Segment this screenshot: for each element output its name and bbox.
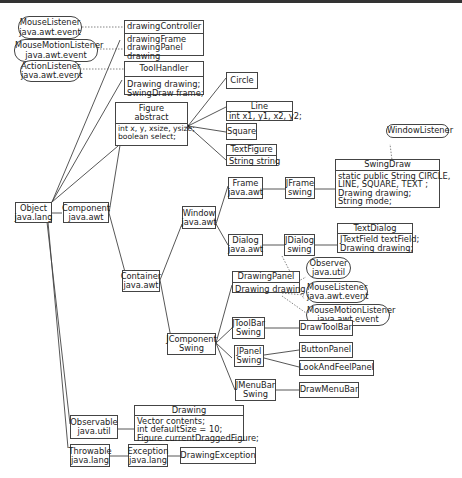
drawing-controller-class: drawingController drawingFrame drawingPa… [124, 20, 204, 56]
class-hierarchy-diagram: MouseListener java.awt.event MouseMotion… [0, 0, 462, 478]
button-panel-class: ButtonPanel [299, 342, 353, 358]
field: drawing [127, 52, 201, 61]
jdialog-class: JDialogswing [284, 234, 315, 256]
frame-class: Framejava.awt [228, 177, 263, 199]
mouse-listener-interface: MouseListener java.awt.event [18, 16, 82, 39]
text-dialog-class: TextDialog JTextField textField; Drawing… [337, 223, 413, 253]
class-name: DrawingPanel [233, 272, 299, 283]
jframe-class: JFrameswing [285, 177, 315, 199]
window-class: Windowjava.awt [182, 206, 216, 229]
swing-draw-class: SwingDraw static public String CIRCLE, L… [335, 159, 440, 208]
class-name: DrawMenuBar [300, 385, 359, 395]
figure-class: Figure abstract int x, y, xsize, ysize; … [115, 102, 188, 146]
drawing-panel-class: DrawingPanel Drawing drawing [232, 271, 300, 293]
field: Figure currentDraggedFigure; [137, 434, 241, 443]
field: String mode; [338, 197, 437, 206]
class-package: Swing [232, 328, 265, 337]
class-package: java.awt [121, 281, 162, 290]
drawing-class: Drawing Vector contents; int defaultSize… [134, 405, 244, 441]
dialog-class: Dialogjava.awt [228, 234, 263, 256]
tool-handler-class: ToolHandler Drawing drawing; SwingDraw f… [124, 61, 204, 95]
jtoolbar-class: JToolBarSwing [232, 317, 265, 339]
text-figure-class: TextFigure String string [226, 144, 277, 166]
mouse-listener-panel-interface: MouseListener java.awt.event [306, 281, 368, 303]
draw-menubar-class: DrawMenuBar [299, 382, 359, 398]
class-package: java.awt [228, 245, 263, 254]
interface-package: java.awt.event [19, 28, 81, 37]
field: Drawing drawing [233, 283, 299, 295]
jpanel-class: JPanelSwing [234, 345, 264, 367]
class-package: swing [286, 188, 314, 197]
class-name: drawingController [125, 21, 203, 34]
class-name: TextDialog [338, 224, 412, 234]
circle-class: Circle [226, 72, 258, 89]
class-name: DrawToolBar [300, 323, 352, 333]
jmenubar-class: JMenuBarSwing [235, 379, 276, 401]
interface-package: java.util [307, 268, 350, 277]
class-package: java.util [70, 427, 117, 436]
drawing-exception-class: DrawingException [180, 447, 256, 464]
class-package: Swing [236, 390, 275, 399]
interface-name: WindowListener [387, 126, 448, 135]
class-package: swing [285, 245, 314, 254]
field: SwingDraw frame; [127, 89, 201, 99]
class-name: DrawingException [180, 451, 255, 461]
look-and-feel-panel-class: LookAndFeelPanel [299, 360, 374, 376]
interface-package: java.awt.event [15, 51, 97, 60]
interface-package: java.awt.event [307, 292, 367, 301]
class-name: SwingDraw [336, 160, 439, 171]
draw-toolbar-class: DrawToolBar [299, 320, 353, 336]
class-package: java.awt [181, 218, 216, 227]
field: Drawing drawing; [340, 244, 410, 253]
class-name: Drawing [135, 406, 243, 416]
exception-class: Exceptionjava.lang [128, 444, 168, 467]
class-name: Square [227, 127, 256, 137]
class-package: java.awt [62, 213, 110, 222]
field: int x1, y1, x2, y2; [227, 112, 292, 121]
class-name: LookAndFeelPanel [299, 363, 374, 373]
class-package: Swing [166, 344, 217, 353]
object-class: Objectjava.lang [15, 202, 52, 223]
field: String string [227, 156, 276, 166]
class-package: Swing [237, 356, 262, 365]
class-name: ButtonPanel [301, 345, 351, 355]
interface-package: java.awt.event [21, 71, 80, 80]
window-listener-interface: WindowListener [386, 124, 449, 138]
component-class: Componentjava.awt [63, 202, 109, 223]
class-package: java.lang [15, 213, 53, 222]
class-modifier: abstract [118, 113, 185, 122]
class-name: ToolHandler [125, 62, 203, 77]
jcomponent-class: JComponentSwing [167, 333, 216, 355]
container-class: Containerjava.awt [122, 270, 160, 292]
action-listener-interface: ActionListener java.awt.event [20, 60, 81, 82]
class-package: java.lang [128, 456, 169, 465]
field: boolean select; [118, 133, 185, 142]
square-class: Square [226, 123, 257, 140]
mouse-motion-listener-interface: MouseMotionListener java.awt.event [14, 39, 98, 62]
observer-interface: Observer java.util [306, 257, 351, 279]
line-class: Line int x1, y1, x2, y2; [226, 101, 293, 121]
class-package: java.awt [228, 188, 263, 197]
observable-class: Observablejava.util [70, 415, 118, 439]
class-name: TextFigure [227, 145, 276, 156]
class-package: java.lang [68, 456, 111, 465]
class-name: Circle [230, 76, 253, 86]
throwable-class: Throwablejava.lang [70, 444, 110, 467]
